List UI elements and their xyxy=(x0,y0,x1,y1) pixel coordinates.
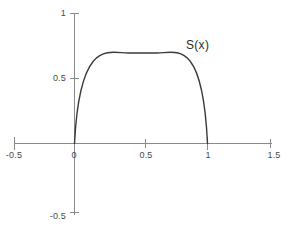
x-tick-label-zero: 0 xyxy=(71,150,76,160)
x-tick-label-one-half: 1.5 xyxy=(267,150,280,160)
data-curve-sx xyxy=(75,52,208,143)
y-tick-label-one: 1 xyxy=(46,8,66,18)
x-tick-label-neg-half: -0.5 xyxy=(6,150,22,160)
y-tick-label-neg-half: -0.5 xyxy=(38,211,66,221)
plot-area xyxy=(0,0,286,227)
x-tick-label-one: 1 xyxy=(205,150,210,160)
y-tick-label-half: 0.5 xyxy=(42,73,66,83)
x-tick-label-half: 0.5 xyxy=(139,150,152,160)
curve-annotation-sx: S(x) xyxy=(186,38,209,52)
chart-figure: -0.5 0 0.5 1 1.5 1 0.5 -0.5 S(x) xyxy=(0,0,286,227)
